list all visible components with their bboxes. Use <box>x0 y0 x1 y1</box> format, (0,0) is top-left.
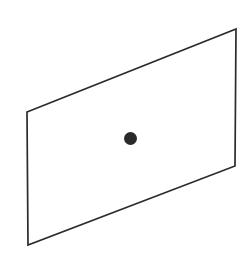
plane-point-marker <box>124 132 137 145</box>
figure-canvas <box>0 0 245 264</box>
plane-diagram-svg <box>0 0 245 264</box>
